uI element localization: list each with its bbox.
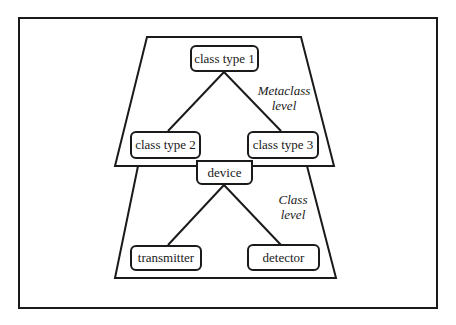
class-level-label: Class level xyxy=(273,192,313,222)
metaclass-level-label-line2: level xyxy=(256,98,312,113)
metaclass-level-label-line1: Metaclass xyxy=(256,83,312,98)
class-level-label-line2: level xyxy=(273,207,313,222)
node-class-type-2: class type 2 xyxy=(130,131,201,159)
node-device: device xyxy=(196,160,253,185)
node-class-type-1: class type 1 xyxy=(190,45,259,72)
metaclass-level-label: Metaclass level xyxy=(256,83,312,113)
node-transmitter: transmitter xyxy=(130,245,202,271)
class-level-label-line1: Class xyxy=(273,192,313,207)
node-detector: detector xyxy=(247,244,320,271)
diagram-canvas: class type 1 class type 2 class type 3 M… xyxy=(0,0,456,325)
node-class-type-3: class type 3 xyxy=(247,131,319,159)
